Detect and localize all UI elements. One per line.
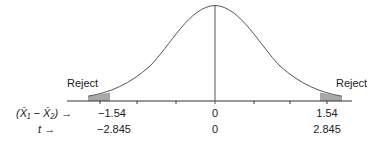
t-left-value: −2.845 bbox=[97, 123, 131, 135]
reject-right-label: Reject bbox=[336, 77, 367, 89]
distribution-plot bbox=[0, 0, 377, 142]
t-row-label: t → bbox=[38, 123, 55, 135]
t-right-value: 2.845 bbox=[313, 123, 341, 135]
diff-center-value: 0 bbox=[212, 107, 218, 119]
diff-right-value: 1.54 bbox=[316, 107, 337, 119]
diff-symbol: (X̄₁ − X̄₂) bbox=[16, 107, 58, 119]
arrow-icon: → bbox=[44, 123, 55, 135]
t-center-value: 0 bbox=[212, 123, 218, 135]
reject-left-label: Reject bbox=[67, 77, 98, 89]
t-symbol: t bbox=[38, 123, 41, 135]
arrow-icon: → bbox=[61, 107, 72, 119]
diff-row-label: (X̄₁ − X̄₂) → bbox=[16, 107, 72, 119]
diff-left-value: −1.54 bbox=[98, 107, 126, 119]
